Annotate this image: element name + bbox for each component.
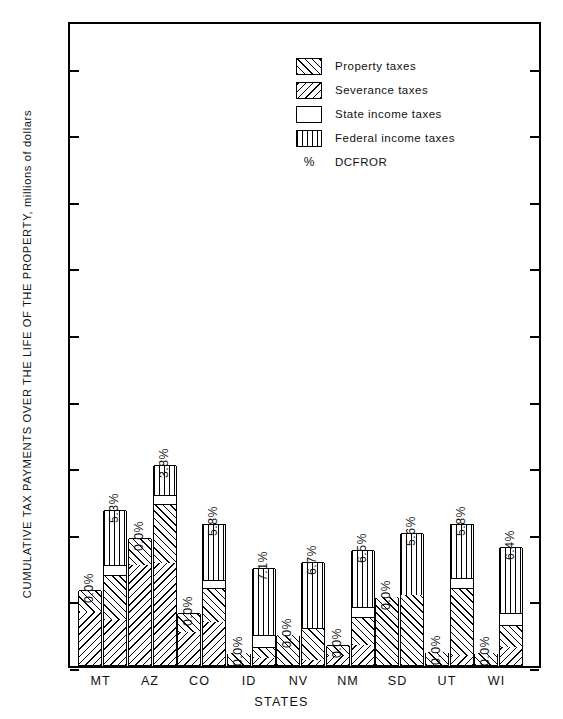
y-tick-mark xyxy=(70,403,79,405)
dcfror-label: 5.6% xyxy=(404,517,418,547)
y-tick-mark-right xyxy=(530,269,539,271)
y-tick-mark-right xyxy=(530,469,539,471)
legend-item: State income taxes xyxy=(296,102,455,126)
y-tick-mark-right xyxy=(530,336,539,338)
dcfror-label: 0.0% xyxy=(280,618,294,648)
legend-label: DCFROR xyxy=(335,156,387,168)
chart-legend: Property taxesSeverance taxesState incom… xyxy=(296,54,455,174)
y-tick-mark xyxy=(70,203,79,205)
chart-figure: CUMULATIVE TAX PAYMENTS OVER THE LIFE OF… xyxy=(0,0,563,719)
dcfror-label: 3.8% xyxy=(157,448,171,478)
legend-item-dcfror: %DCFROR xyxy=(296,150,455,174)
y-tick-mark-right xyxy=(530,70,539,72)
bar-segment-property xyxy=(253,647,275,659)
bar-segment-state xyxy=(451,578,473,588)
dcfror-label: 6.4% xyxy=(503,530,517,560)
dcfror-label: 0.0% xyxy=(132,522,146,552)
legend-item: Property taxes xyxy=(296,54,455,78)
bar-az-2 xyxy=(153,466,177,666)
bar-segment-severance xyxy=(302,660,324,665)
y-tick-mark-right xyxy=(530,536,539,538)
dcfror-label: 0.0% xyxy=(82,573,96,603)
bar-nm-2 xyxy=(351,551,375,666)
legend-label: Severance taxes xyxy=(335,84,428,96)
bar-segment-severance xyxy=(79,612,101,665)
dcfror-label: 0.0% xyxy=(330,628,344,658)
legend-swatch-state-icon xyxy=(296,106,322,123)
y-tick-mark-right xyxy=(530,136,539,138)
bar-segment-state xyxy=(500,613,522,625)
bar-segment-property xyxy=(500,625,522,647)
dcfror-label: 5.8% xyxy=(206,507,220,537)
bar-segment-state xyxy=(203,580,225,588)
bar-segment-state xyxy=(253,635,275,647)
y-tick-mark xyxy=(70,70,79,72)
bar-segment-severance xyxy=(253,658,275,665)
bar-segment-severance xyxy=(154,563,176,665)
bar-segment-state xyxy=(154,495,176,503)
y-tick-mark xyxy=(70,536,79,538)
y-tick-mark-right xyxy=(530,203,539,205)
y-tick-mark-right xyxy=(530,602,539,604)
bar-segment-severance xyxy=(129,565,151,665)
bar-segment-property xyxy=(104,575,126,620)
bar-nv-2 xyxy=(301,563,325,666)
dcfror-label: 5.3% xyxy=(107,493,121,523)
legend-label: State income taxes xyxy=(335,108,442,120)
bar-segment-severance xyxy=(500,647,522,665)
bar-co-2 xyxy=(202,524,226,666)
bar-az-1 xyxy=(128,539,152,666)
bar-mt-2 xyxy=(103,511,127,666)
bar-id-2 xyxy=(252,569,276,666)
bar-segment-property xyxy=(154,504,176,564)
dcfror-label: 0.0% xyxy=(181,597,195,627)
legend-label: Property taxes xyxy=(335,60,416,72)
dcfror-label: 6.5% xyxy=(355,533,369,563)
legend-label: Federal income taxes xyxy=(335,132,455,144)
y-tick-mark-right xyxy=(530,669,539,671)
percent-symbol-icon: % xyxy=(296,155,322,169)
bar-segment-property xyxy=(451,588,473,655)
bar-segment-severance xyxy=(352,645,374,665)
bar-segment-property xyxy=(203,588,225,621)
bar-ut-2 xyxy=(450,524,474,666)
bar-segment-property xyxy=(302,628,324,660)
x-tick-label-wi: WI xyxy=(467,674,527,688)
y-tick-mark xyxy=(70,669,79,671)
bar-segment-severance xyxy=(178,632,200,665)
dcfror-label: 0.0% xyxy=(429,635,443,665)
legend-swatch-federal-icon xyxy=(296,130,322,147)
dcfror-label: 0.0% xyxy=(231,637,245,667)
bar-segment-severance xyxy=(104,620,126,665)
y-tick-mark xyxy=(70,336,79,338)
bar-segment-severance xyxy=(451,655,473,665)
y-tick-mark xyxy=(70,269,79,271)
x-axis-title: STATES xyxy=(0,695,563,709)
bar-segment-property xyxy=(401,595,423,665)
legend-swatch-property-icon xyxy=(296,58,322,75)
bar-segment-state xyxy=(352,607,374,617)
plot-area: 04080120160200240280320360 Property taxe… xyxy=(68,22,541,668)
dcfror-label: 0.0% xyxy=(478,637,492,667)
y-tick-mark-right xyxy=(530,403,539,405)
dcfror-label: 0.0% xyxy=(379,580,393,610)
bar-segment-property xyxy=(352,617,374,645)
legend-item: Federal income taxes xyxy=(296,126,455,150)
bar-segment-severance xyxy=(203,622,225,665)
bar-segment-state xyxy=(104,565,126,575)
legend-swatch-severance-icon xyxy=(296,82,322,99)
y-tick-mark xyxy=(70,469,79,471)
legend-item: Severance taxes xyxy=(296,78,455,102)
dcfror-label: 6.7% xyxy=(305,545,319,575)
dcfror-label: 5.8% xyxy=(454,507,468,537)
y-tick-mark xyxy=(70,136,79,138)
bar-sd-2 xyxy=(400,534,424,666)
dcfror-label: 7.1% xyxy=(256,552,270,582)
bar-wi-2 xyxy=(499,548,523,666)
y-axis-title: CUMULATIVE TAX PAYMENTS OVER THE LIFE OF… xyxy=(21,44,33,664)
